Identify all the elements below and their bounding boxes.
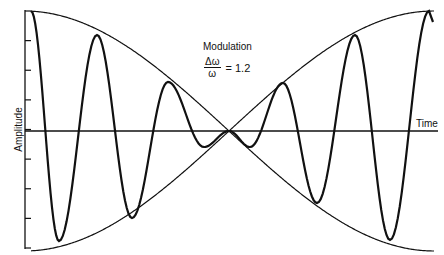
- y-axis-label: Amplitude: [13, 100, 24, 160]
- x-axis-label: Time: [416, 118, 438, 129]
- ratio-numerator: Δω: [204, 56, 221, 68]
- ratio-fraction: Δω ω: [204, 56, 221, 79]
- ratio-denominator: ω: [208, 68, 216, 79]
- y-axis: [25, 10, 31, 249]
- modulation-ratio: Δω ω = 1.2: [204, 56, 250, 79]
- modulation-title: Modulation: [203, 41, 252, 52]
- modulation-diagram: [0, 0, 444, 255]
- ratio-value: = 1.2: [226, 62, 251, 74]
- y-axis-ticks: [25, 11, 31, 248]
